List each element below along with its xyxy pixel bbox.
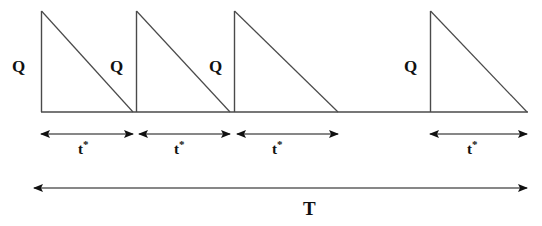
t-star-superscript-1: * [83, 138, 89, 150]
sawtooth-ramp-4 [431, 11, 528, 112]
q-label-4: Q [404, 58, 417, 75]
t-star-label-3: t* [272, 142, 283, 157]
period-label-T: T [303, 199, 316, 218]
q-label-2: Q [110, 58, 123, 75]
q-label-1: Q [12, 58, 25, 75]
sawtooth-ramp-3 [235, 11, 339, 112]
sawtooth-waveform-figure: Q Q Q Q t* t* t* t* T [0, 0, 542, 226]
t-star-superscript-2: * [179, 138, 185, 150]
t-star-superscript-3: * [277, 138, 283, 150]
t-star-superscript-4: * [472, 138, 478, 150]
t-star-label-4: t* [467, 142, 478, 157]
t-star-label-2: t* [174, 142, 185, 157]
waveform-drawing [0, 0, 542, 226]
t-star-label-1: t* [78, 142, 89, 157]
q-label-3: Q [209, 58, 222, 75]
